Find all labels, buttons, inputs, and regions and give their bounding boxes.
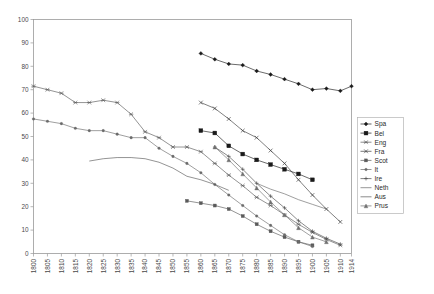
x-tick-label: 1905 xyxy=(323,259,330,274)
legend-label: Bel xyxy=(375,130,385,137)
legend-label: Spa xyxy=(375,120,387,128)
x-tick-label: 1880 xyxy=(253,259,260,274)
x-tick-label: 1910 xyxy=(337,259,344,274)
legend-label: Fra xyxy=(375,148,385,155)
x-tick-label: 1800 xyxy=(30,259,37,274)
x-tick-label: 1890 xyxy=(281,259,288,274)
legend-label: Neth xyxy=(375,184,389,191)
series-bel xyxy=(199,129,314,182)
x-tick-label: 1820 xyxy=(86,259,93,274)
series-it xyxy=(32,118,314,248)
x-tick-label: 1895 xyxy=(295,259,302,274)
x-tick-label: 1805 xyxy=(44,259,51,274)
x-tick-label: 1870 xyxy=(225,259,232,274)
y-tick-label: 50 xyxy=(21,133,29,140)
series-aus xyxy=(89,158,228,191)
legend-label: Prus xyxy=(375,202,389,209)
x-tick-label: 1845 xyxy=(155,259,162,274)
x-axis-ticks: 1800180518101815182018251830183518401845… xyxy=(30,254,355,274)
x-tick-label: 1835 xyxy=(128,259,135,274)
legend-label: Eng xyxy=(375,139,387,147)
series-ire xyxy=(213,145,342,246)
legend-label: Scot xyxy=(375,157,388,164)
series-layer xyxy=(31,52,353,248)
series-eng xyxy=(31,84,342,247)
x-tick-label: 1840 xyxy=(141,259,148,274)
plot-frame xyxy=(34,20,352,254)
y-tick-label: 60 xyxy=(21,109,29,116)
y-tick-label: 90 xyxy=(21,39,29,46)
y-tick-label: 80 xyxy=(21,63,29,70)
y-tick-label: 30 xyxy=(21,180,29,187)
x-tick-label: 1850 xyxy=(169,259,176,274)
x-tick-label: 1855 xyxy=(183,259,190,274)
x-tick-label: 1865 xyxy=(211,259,218,274)
y-axis-ticks: 0102030405060708090100 xyxy=(18,16,34,257)
y-tick-label: 70 xyxy=(21,86,29,93)
chart-legend: SpaBelEngFraScotItIreNethAusPrus xyxy=(358,118,404,214)
x-tick-label: 1885 xyxy=(267,259,274,274)
legend-label: Ire xyxy=(375,175,383,182)
series-spa xyxy=(199,52,353,93)
x-tick-label: 1810 xyxy=(58,259,65,274)
x-tick-label: 1825 xyxy=(100,259,107,274)
y-tick-label: 100 xyxy=(18,16,29,23)
line-chart: 0102030405060708090100 18001805181018151… xyxy=(0,0,434,294)
legend-label: It xyxy=(375,166,379,173)
y-tick-label: 20 xyxy=(21,203,29,210)
y-tick-label: 0 xyxy=(25,250,29,257)
x-tick-label: 1875 xyxy=(239,259,246,274)
x-tick-label: 1815 xyxy=(72,259,79,274)
y-tick-label: 40 xyxy=(21,156,29,163)
chart-container: 0102030405060708090100 18001805181018151… xyxy=(0,0,434,294)
series-neth xyxy=(257,183,327,209)
y-tick-label: 10 xyxy=(21,226,29,233)
x-tick-label: 1860 xyxy=(197,259,204,274)
x-tick-label: 1914 xyxy=(348,259,355,274)
x-tick-label: 1900 xyxy=(309,259,316,274)
legend-label: Aus xyxy=(375,193,387,200)
x-tick-label: 1830 xyxy=(114,259,121,274)
